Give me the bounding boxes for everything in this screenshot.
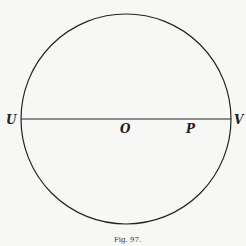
figure-diagram: U O P V Fig. 97.: [0, 0, 246, 246]
label-v: V: [234, 113, 245, 127]
label-p: P: [185, 122, 196, 136]
label-o: O: [120, 122, 131, 136]
label-u: U: [6, 113, 18, 127]
figure-caption: Fig. 97.: [114, 236, 141, 244]
